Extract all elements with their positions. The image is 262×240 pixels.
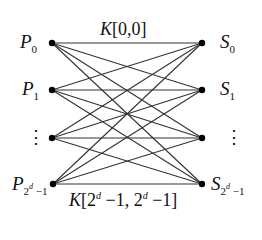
vertical-ellipsis-left: ⋮ <box>27 128 45 146</box>
node-S0 <box>199 40 205 46</box>
node-Plast <box>50 181 56 187</box>
node-S1 <box>199 87 205 93</box>
node-label-p1: P1 <box>22 79 39 102</box>
node-label-s0: S0 <box>220 32 235 55</box>
vertical-ellipsis-right: ⋮ <box>225 128 243 146</box>
node-P1 <box>49 87 55 93</box>
node-label-s1: S1 <box>220 79 235 102</box>
node-label-p0: P0 <box>20 32 37 55</box>
node-Slast <box>199 181 205 187</box>
node-label-s-last: S2d −1 <box>211 174 244 197</box>
edges <box>52 43 202 184</box>
edge-label-bottom: K[2d −1, 2d −1] <box>69 191 177 209</box>
node-P0 <box>49 40 55 46</box>
node-Pdots <box>49 135 55 141</box>
node-label-p-last: P2d −1 <box>12 174 48 197</box>
edge-label-top: K[0,0] <box>100 20 147 38</box>
node-Sdots <box>199 135 205 141</box>
